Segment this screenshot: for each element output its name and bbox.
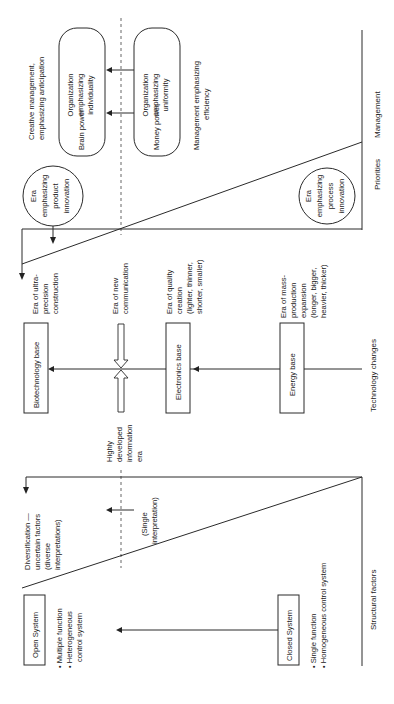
org-individuality-label-3: individuality — [86, 75, 95, 114]
product-circle-line-1: Era — [29, 189, 38, 202]
new-communication-label: Era of new communication — [111, 263, 130, 314]
hollow-arrow-down-icon — [114, 324, 128, 368]
management-label: Management — [373, 91, 382, 138]
org-uniformity-label-3: uniformity — [161, 78, 170, 111]
creative-management-label: Creative management, emphasizing anticip… — [27, 57, 46, 140]
process-circle-line-1: Era — [304, 189, 313, 202]
product-circle-line-4: innovation — [62, 179, 71, 214]
hollow-arrow-up-icon — [114, 370, 128, 412]
process-circle-line-4: innovation — [337, 179, 346, 214]
arrowhead-down-icon — [23, 487, 29, 494]
process-circle-line-3: process — [326, 183, 335, 210]
org-uniformity-label-2: emphasizing — [151, 74, 160, 117]
open-system-label: Open System — [31, 612, 40, 658]
technology-changes-label: Technology changes — [369, 339, 378, 412]
structural-factors-label: Structural factors — [369, 570, 378, 630]
process-circle-line-2: emphasizing — [315, 175, 324, 218]
product-circle-line-3: product — [51, 182, 60, 208]
single-interpretation-label: (Single interpretation) — [140, 497, 159, 544]
org-individuality-label: Organization — [66, 73, 75, 116]
org-uniformity-label: Organization — [141, 73, 150, 116]
arrowhead-left-icon — [106, 67, 112, 73]
arrowhead-down-icon — [50, 237, 56, 244]
arrowhead-left-icon — [106, 507, 112, 513]
arrowhead-left-icon — [106, 110, 112, 116]
product-circle-line-2: emphasizing — [40, 175, 49, 218]
arrowhead-left-icon — [193, 366, 199, 372]
org-individuality-label-2: emphasizing — [76, 74, 85, 117]
biotechnology-base-label: Biotechnology base — [32, 342, 41, 408]
mass-production-label: Era of mass- production expansion (longe… — [279, 264, 328, 318]
structural-diagonal — [22, 477, 362, 588]
quality-creation-label: Era of quality creation (lighter, thinne… — [165, 259, 204, 314]
priorities-label: Priorities — [373, 159, 382, 190]
efficiency-label: Management emphasizing efficiency — [192, 59, 211, 150]
ultra-precision-label: Era of ultra- precision construction — [31, 272, 60, 314]
electronics-base-label: Electronics base — [174, 344, 183, 400]
diversification-label: Diversification — uncertain factors (div… — [23, 511, 62, 570]
information-era-label: Highly developed information era — [105, 422, 144, 462]
closed-system-label: Closed System — [285, 610, 294, 661]
arrowhead-left-icon — [48, 366, 54, 372]
arrowhead-left-icon — [116, 627, 122, 633]
open-system-bullets: • Multiple function • Heterogeneous cont… — [55, 606, 84, 668]
arrowhead-down-icon — [19, 273, 25, 280]
energy-base-label: Energy base — [288, 353, 297, 396]
closed-system-bullets: • Single function • Homogeneous control … — [309, 563, 328, 668]
diagram-canvas: Creative management, emphasizing anticip… — [0, 0, 394, 704]
